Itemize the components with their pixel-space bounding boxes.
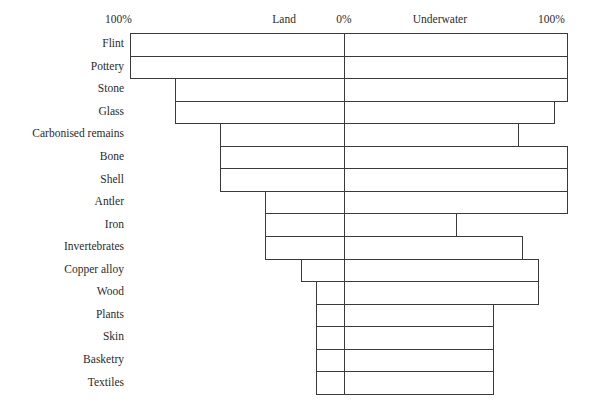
axis-label-underwater: Underwater [413,14,467,26]
category-label: Stone [98,83,124,95]
bar-glass [175,101,554,124]
category-label: Bone [100,151,124,163]
category-label: Flint [102,38,124,50]
bar-invertebrates [265,237,523,260]
axis-label-right-100: 100% [538,14,565,26]
bar-basketry [317,349,494,372]
bar-skin [317,327,494,350]
bar-copper-alloy [302,259,539,282]
category-label: Shell [100,174,124,186]
axis-label-zero: 0% [336,14,351,26]
axis-label-land: Land [272,14,296,26]
bar-stone [175,79,567,102]
bar-antler [265,191,567,214]
category-label: Carbonised remains [32,128,124,140]
diverging-bar-chart: 100% Land 0% Underwater 100% FlintPotter… [0,0,591,412]
bar-shell [220,169,567,192]
bar-pottery [131,56,568,79]
category-label-column: FlintPotteryStoneGlassCarbonised remains… [0,0,124,412]
bar-iron [265,214,456,237]
category-label: Copper alloy [64,264,124,276]
category-label: Glass [98,106,124,118]
category-label: Pottery [91,61,124,73]
bar-wood [317,282,539,305]
category-label: Invertebrates [64,241,124,253]
bar-plants [317,304,494,327]
bar-flint [131,34,568,57]
bar-textiles [317,372,494,395]
category-label: Textiles [88,377,124,389]
category-label: Skin [103,331,124,343]
category-label: Antler [95,196,124,208]
category-label: Wood [97,286,124,298]
category-label: Basketry [83,354,124,366]
bar-bone [220,146,567,169]
bar-carbonised-remains [220,124,518,147]
category-label: Iron [105,219,124,231]
category-label: Plants [96,309,124,321]
